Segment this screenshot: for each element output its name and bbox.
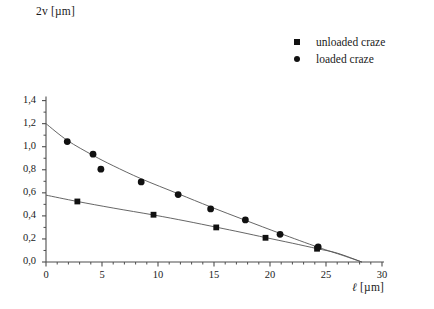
legend-item-loaded-craze: loaded craze bbox=[286, 50, 426, 67]
x-tick-label: 20 bbox=[258, 269, 282, 280]
data-point-circle bbox=[97, 166, 104, 173]
data-point-square bbox=[74, 199, 80, 205]
y-tick-label: 1,4 bbox=[10, 94, 36, 105]
data-point-square bbox=[151, 212, 157, 218]
x-tick-label: 25 bbox=[314, 269, 338, 280]
data-point-circle bbox=[207, 206, 214, 213]
legend-item-unloaded-craze: unloaded craze bbox=[286, 33, 426, 50]
data-point-square bbox=[263, 235, 269, 241]
axis-lines bbox=[46, 97, 384, 262]
chart-legend: unloaded craze loaded craze bbox=[286, 33, 426, 67]
data-point-circle bbox=[175, 191, 182, 198]
circle-marker-icon bbox=[286, 56, 308, 62]
data-point-circle bbox=[277, 231, 284, 238]
y-tick-label: 0,0 bbox=[10, 255, 36, 266]
y-tick-label: 1,0 bbox=[10, 140, 36, 151]
data-point-square bbox=[213, 225, 219, 231]
legend-label-unloaded-craze: unloaded craze bbox=[308, 36, 385, 48]
data-point-circle bbox=[138, 178, 145, 185]
y-tick-label: 0,2 bbox=[10, 232, 36, 243]
craze-displacement-chart: 2v [µm] ℓ [µm] 0,00,20,40,60,81,01,21,40… bbox=[0, 0, 434, 309]
x-tick-label: 15 bbox=[202, 269, 226, 280]
fit-curve-loaded-craze bbox=[46, 124, 362, 262]
y-tick-label: 1,2 bbox=[10, 117, 36, 128]
data-points bbox=[64, 138, 322, 252]
legend-label-loaded-craze: loaded craze bbox=[308, 53, 374, 65]
y-tick-label: 0,6 bbox=[10, 186, 36, 197]
fit-curves bbox=[46, 124, 362, 262]
x-tick-label: 10 bbox=[146, 269, 170, 280]
x-tick-label: 0 bbox=[34, 269, 58, 280]
y-tick-label: 0,4 bbox=[10, 209, 36, 220]
fit-curve-unloaded-craze bbox=[46, 195, 362, 262]
data-point-circle bbox=[242, 217, 249, 224]
x-tick-label: 30 bbox=[370, 269, 394, 280]
axis-ticks bbox=[42, 101, 382, 267]
y-tick-label: 0,8 bbox=[10, 163, 36, 174]
square-marker-icon bbox=[286, 39, 308, 45]
data-point-circle bbox=[90, 151, 97, 158]
x-tick-label: 5 bbox=[90, 269, 114, 280]
data-point-circle bbox=[64, 138, 71, 145]
data-point-circle bbox=[315, 244, 322, 251]
